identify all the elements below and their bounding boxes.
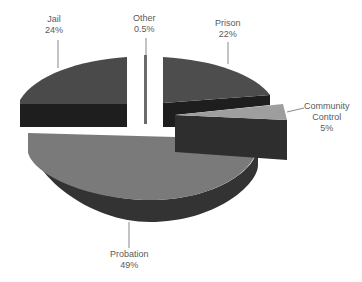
label-probation: Probation 49% — [110, 249, 149, 271]
label-other-name: Other — [133, 13, 156, 24]
label-other: Other 0.5% — [133, 13, 156, 35]
label-jail-pct: 24% — [45, 25, 63, 36]
label-probation-pct: 49% — [110, 260, 149, 271]
label-prison: Prison 22% — [215, 18, 241, 40]
label-community-pct: 5% — [304, 123, 350, 134]
slice-other — [144, 55, 147, 124]
label-community-line2: Control — [304, 112, 350, 123]
label-jail-name: Jail — [45, 14, 63, 25]
label-probation-name: Probation — [110, 249, 149, 260]
label-jail: Jail 24% — [45, 14, 63, 36]
label-community-control: Community Control 5% — [304, 101, 350, 134]
pie-chart — [0, 0, 362, 282]
label-prison-pct: 22% — [215, 29, 241, 40]
label-prison-name: Prison — [215, 18, 241, 29]
slice-jail — [20, 57, 127, 127]
label-other-pct: 0.5% — [133, 24, 156, 35]
label-community-line1: Community — [304, 101, 350, 112]
